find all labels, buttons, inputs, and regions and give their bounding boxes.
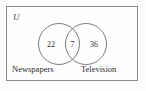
region-count-intersection: 7 — [71, 40, 75, 49]
region-count-television-only: 36 — [90, 40, 98, 49]
venn-diagram-figure: U 22 7 36 Newspapers Television — [0, 0, 146, 91]
universe-label: U — [13, 12, 20, 22]
set-label-newspapers: Newspapers — [12, 64, 54, 74]
venn-diagram-canvas: U 22 7 36 Newspapers Television — [0, 0, 146, 91]
set-label-television: Television — [81, 64, 117, 74]
region-count-newspapers-only: 22 — [47, 40, 55, 49]
